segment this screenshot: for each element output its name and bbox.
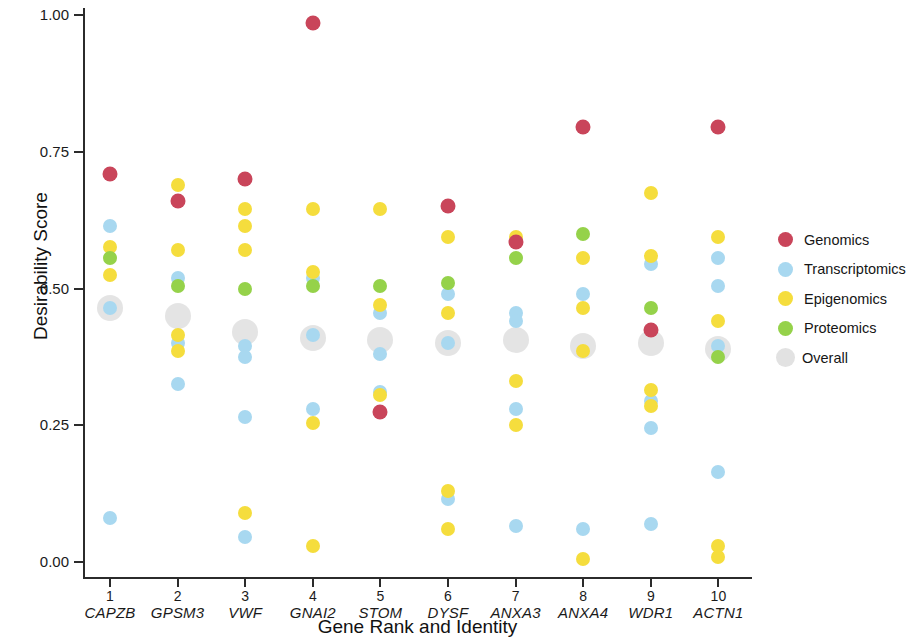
legend-item-transcriptomics[interactable]: Transcriptomics (778, 255, 918, 285)
data-point-epigenomics (711, 314, 725, 328)
data-point-transcriptomics (373, 347, 387, 361)
data-point-proteomics (509, 251, 523, 265)
x-axis-tick (717, 579, 719, 587)
legend-item-overall[interactable]: Overall (778, 343, 918, 373)
data-point-epigenomics (103, 268, 117, 282)
data-point-transcriptomics (711, 251, 725, 265)
data-point-genomics (103, 166, 118, 181)
data-point-overall (165, 303, 191, 329)
data-point-epigenomics (441, 522, 455, 536)
data-point-epigenomics (644, 383, 658, 397)
data-point-transcriptomics (171, 377, 185, 391)
data-point-transcriptomics (509, 402, 523, 416)
data-point-transcriptomics (711, 465, 725, 479)
legend-swatch-genomics-icon (778, 232, 793, 247)
legend-label: Epigenomics (804, 291, 887, 307)
y-axis-tick (74, 151, 83, 153)
data-point-proteomics (306, 279, 320, 293)
legend-swatch-proteomics-icon (778, 321, 793, 336)
legend-item-proteomics[interactable]: Proteomics (778, 314, 918, 344)
data-point-epigenomics (306, 416, 320, 430)
data-point-epigenomics (711, 230, 725, 244)
data-point-epigenomics (306, 202, 320, 216)
data-point-transcriptomics (238, 530, 252, 544)
y-axis-tick-label: 1.00 (19, 6, 69, 23)
data-point-genomics (170, 193, 185, 208)
legend-item-genomics[interactable]: Genomics (778, 225, 918, 255)
data-point-transcriptomics (103, 219, 117, 233)
data-point-epigenomics (441, 230, 455, 244)
data-point-epigenomics (441, 484, 455, 498)
x-axis-tick (515, 579, 517, 587)
data-point-proteomics (238, 282, 252, 296)
data-point-proteomics (103, 251, 117, 265)
data-point-genomics (711, 120, 726, 135)
legend-label: Genomics (804, 232, 869, 248)
data-point-transcriptomics (711, 279, 725, 293)
data-point-epigenomics (238, 202, 252, 216)
legend-swatch-overall-icon (776, 348, 795, 367)
y-axis-tick (74, 288, 83, 290)
y-axis-tick (74, 14, 83, 16)
data-point-epigenomics (171, 178, 185, 192)
data-point-epigenomics (509, 418, 523, 432)
data-point-genomics (576, 120, 591, 135)
data-point-epigenomics (644, 186, 658, 200)
data-point-genomics (643, 322, 658, 337)
data-point-epigenomics (306, 539, 320, 553)
data-point-transcriptomics (576, 287, 590, 301)
y-axis-tick-label: 0.25 (19, 416, 69, 433)
data-point-transcriptomics (238, 410, 252, 424)
data-point-proteomics (644, 301, 658, 315)
data-point-epigenomics (644, 399, 658, 413)
data-point-transcriptomics (238, 350, 252, 364)
data-point-transcriptomics (509, 519, 523, 533)
x-axis-tick (650, 579, 652, 587)
data-point-epigenomics (171, 344, 185, 358)
data-point-proteomics (373, 279, 387, 293)
y-axis-line (83, 8, 85, 579)
x-axis-rank-label: 10 (673, 589, 763, 605)
x-axis-tick (177, 579, 179, 587)
data-point-transcriptomics (576, 522, 590, 536)
data-point-epigenomics (576, 552, 590, 566)
legend-label: Overall (802, 350, 848, 366)
data-point-transcriptomics (103, 511, 117, 525)
data-point-transcriptomics (644, 517, 658, 531)
data-point-proteomics (171, 279, 185, 293)
x-axis-tick (109, 579, 111, 587)
x-axis-title: Gene Rank and Identity (83, 616, 752, 638)
data-point-epigenomics (238, 243, 252, 257)
data-point-genomics (238, 172, 253, 187)
x-axis-tick (312, 579, 314, 587)
y-axis-tick (74, 424, 83, 426)
data-point-transcriptomics (644, 421, 658, 435)
legend-item-epigenomics[interactable]: Epigenomics (778, 284, 918, 314)
x-axis-tick (379, 579, 381, 587)
data-point-transcriptomics (441, 336, 455, 350)
data-point-epigenomics (644, 249, 658, 263)
y-axis-title: Desirability Score (30, 146, 52, 386)
data-point-genomics (508, 235, 523, 250)
data-point-epigenomics (509, 374, 523, 388)
chart-legend: GenomicsTranscriptomicsEpigenomicsProteo… (778, 225, 918, 373)
data-point-epigenomics (373, 388, 387, 402)
data-point-proteomics (576, 227, 590, 241)
data-point-epigenomics (576, 251, 590, 265)
x-axis-tick (244, 579, 246, 587)
data-point-overall (503, 327, 529, 353)
data-point-epigenomics (373, 298, 387, 312)
data-point-genomics (305, 16, 320, 31)
data-point-epigenomics (238, 219, 252, 233)
data-point-epigenomics (373, 202, 387, 216)
data-point-transcriptomics (509, 314, 523, 328)
legend-label: Proteomics (804, 320, 877, 336)
legend-swatch-transcriptomics-icon (778, 262, 793, 277)
data-point-epigenomics (576, 344, 590, 358)
data-point-epigenomics (306, 265, 320, 279)
x-axis-tick (582, 579, 584, 587)
data-point-proteomics (441, 276, 455, 290)
data-point-epigenomics (171, 243, 185, 257)
data-point-transcriptomics (306, 402, 320, 416)
